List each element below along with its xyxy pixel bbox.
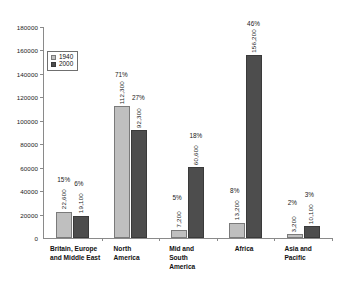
y-tick-mark bbox=[40, 215, 43, 216]
x-axis-separator bbox=[159, 238, 160, 241]
bar-2000-2 bbox=[188, 167, 204, 238]
bar-group: 112,30071%92,30027% bbox=[102, 27, 160, 238]
bar-value-label: 112,300 bbox=[119, 81, 125, 104]
x-axis-separator bbox=[102, 238, 103, 241]
bar-percent-label: 5% bbox=[172, 195, 181, 201]
bar-value-label: 7,200 bbox=[176, 211, 182, 227]
x-axis-category-label: North America bbox=[114, 244, 140, 262]
bar-value-label: 10,100 bbox=[308, 204, 314, 224]
bar-percent-label: 15% bbox=[57, 177, 70, 183]
bar-value-label: 156,200 bbox=[251, 29, 257, 53]
y-tick-label-60000: 60000 bbox=[20, 164, 38, 171]
bar-percent-label: 27% bbox=[132, 95, 145, 101]
bar-value-label: 19,100 bbox=[78, 193, 84, 213]
x-axis-separator bbox=[332, 238, 333, 241]
y-tick-label-40000: 40000 bbox=[20, 188, 38, 195]
bar-value-label: 13,200 bbox=[234, 200, 240, 220]
bar-percent-label: 18% bbox=[189, 133, 202, 139]
legend-swatch-2000-icon bbox=[51, 62, 56, 67]
bar-percent-label: 3% bbox=[305, 192, 314, 198]
bar-1940-0 bbox=[56, 212, 72, 238]
bar-value-label: 3,200 bbox=[291, 216, 297, 232]
bar-2000-3 bbox=[246, 55, 262, 238]
y-tick-mark bbox=[40, 191, 43, 192]
bar-percent-label: 6% bbox=[74, 181, 83, 187]
legend-swatch-1940-icon bbox=[51, 55, 56, 60]
bar-value-label: 92,300 bbox=[136, 108, 142, 128]
bar-group: 7,2005%60,60018% bbox=[159, 27, 217, 238]
bar-group: 3,2002%10,1003% bbox=[274, 27, 332, 238]
bar-group-inner: 112,30071%92,30027% bbox=[102, 27, 160, 238]
x-axis-category-label: Africa bbox=[235, 244, 254, 253]
bar-1940-2 bbox=[171, 230, 187, 238]
y-tick-mark bbox=[40, 50, 43, 51]
plot-area: 22,60015%19,1006%112,30071%92,30027%7,20… bbox=[44, 27, 332, 238]
bar-percent-label: 71% bbox=[115, 72, 128, 78]
y-axis-labels: 2000040000600008000010000012000014000016… bbox=[0, 22, 42, 238]
bar-2000-1 bbox=[131, 130, 147, 238]
y-tick-label-120000: 120000 bbox=[17, 94, 38, 101]
y-tick-label-180000: 180000 bbox=[17, 24, 38, 31]
bar-value-label: 60,600 bbox=[193, 145, 199, 165]
x-axis-category-label: Mid and South America bbox=[169, 244, 195, 271]
y-tick-mark bbox=[40, 121, 43, 122]
bar-1940-4 bbox=[287, 234, 303, 238]
bar-group-inner: 3,2002%10,1003% bbox=[274, 27, 332, 238]
bar-group: 13,2008%156,20046% bbox=[217, 27, 275, 238]
x-axis-separator bbox=[217, 238, 218, 241]
bar-percent-label: 8% bbox=[230, 188, 239, 194]
y-tick-label-140000: 140000 bbox=[17, 70, 38, 77]
y-tick-label-160000: 160000 bbox=[17, 47, 38, 54]
legend-item-2000: 2000 bbox=[51, 61, 73, 67]
y-tick-mark bbox=[40, 97, 43, 98]
x-axis-category-label: Asia and Pacific bbox=[284, 244, 311, 262]
bar-group-inner: 13,2008%156,20046% bbox=[217, 27, 275, 238]
y-tick-mark bbox=[40, 74, 43, 75]
y-tick-label-0: 0 bbox=[35, 235, 38, 242]
y-tick-label-100000: 100000 bbox=[17, 117, 38, 124]
bar-group-inner: 7,2005%60,60018% bbox=[159, 27, 217, 238]
y-tick-label-20000: 20000 bbox=[20, 211, 38, 218]
bar-1940-3 bbox=[229, 223, 245, 238]
chart-legend: 1940 2000 bbox=[47, 51, 78, 71]
bar-value-label: 22,600 bbox=[61, 189, 67, 209]
y-tick-mark bbox=[40, 27, 43, 28]
x-axis-line bbox=[43, 238, 333, 239]
bar-1940-1 bbox=[114, 106, 130, 238]
bar-2000-4 bbox=[304, 226, 320, 238]
bar-percent-label: 2% bbox=[288, 200, 297, 206]
x-axis-category-label: Britain, Europe and Middle East bbox=[50, 244, 100, 262]
y-tick-label-80000: 80000 bbox=[20, 141, 38, 148]
y-tick-mark bbox=[40, 168, 43, 169]
bar-chart: 2000040000600008000010000012000014000016… bbox=[0, 0, 346, 287]
bar-percent-label: 46% bbox=[247, 21, 260, 27]
legend-label-2000: 2000 bbox=[59, 61, 73, 67]
bar-2000-0 bbox=[73, 216, 89, 238]
y-tick-mark bbox=[40, 144, 43, 145]
x-axis-separator bbox=[274, 238, 275, 241]
